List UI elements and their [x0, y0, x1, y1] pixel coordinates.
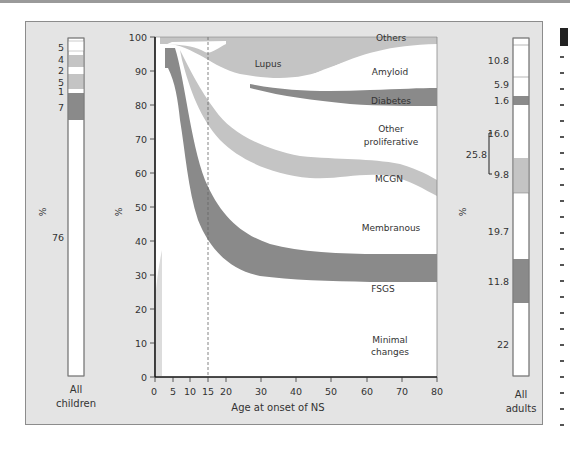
label-mcgn: MCGN: [375, 174, 403, 184]
adjacent-text-column: [560, 28, 570, 448]
adults-bracket-label: 25.8: [466, 149, 487, 160]
adults-seg-diabetes: [513, 96, 529, 105]
y-tick-50: 50: [135, 202, 147, 213]
x-tick-60: 60: [361, 386, 373, 397]
x-axis-label: Age at onset of NS: [231, 402, 324, 413]
y-tick-10: 10: [135, 338, 147, 349]
children-val-0: 5: [58, 42, 64, 53]
label-others: Others: [376, 33, 407, 43]
adults-axis-label: %: [458, 207, 468, 216]
y-tick-80: 80: [135, 100, 147, 111]
children-val-5: 7: [58, 102, 64, 113]
x-tick-80: 80: [431, 386, 443, 397]
x-tick-50: 50: [325, 386, 337, 397]
x-tick-70: 70: [396, 386, 408, 397]
children-label-2: children: [56, 398, 96, 409]
label-other-prolif-1: Other: [378, 124, 404, 134]
main-plot: 0 10 20 30 40 50 60 70 80 90 100 %: [114, 32, 443, 413]
children-seg-fsgs: [68, 93, 84, 120]
children-seg-membranous: [68, 89, 84, 93]
adjacent-heading-fragment: [560, 28, 568, 46]
y-tick-100: 100: [129, 32, 147, 43]
x-tick-30: 30: [255, 386, 267, 397]
adults-seg-mcgn: [513, 158, 529, 193]
adults-val-2: 1.6: [494, 95, 509, 106]
label-lupus: Lupus: [255, 59, 282, 69]
x-tick-15: 15: [202, 386, 214, 397]
children-axis-label: %: [38, 207, 48, 216]
children-seg-otherprolif: [68, 67, 84, 74]
y-tick-40: 40: [135, 236, 147, 247]
children-bar: 5 4 2 5 1 7 76 % All children: [38, 38, 96, 409]
y-tick-90: 90: [135, 66, 147, 77]
adults-label-2: adults: [506, 403, 537, 414]
adults-val-7: 22: [497, 339, 509, 350]
x-tick-5: 5: [170, 386, 176, 397]
children-val-2: 2: [58, 65, 64, 76]
adults-bar: 10.8 5.9 1.6 16.0 9.8 19.7 11.8 22 25.8 …: [458, 38, 536, 414]
children-label-1: All: [70, 384, 82, 395]
y-tick-0: 0: [141, 372, 147, 383]
label-membranous: Membranous: [362, 223, 421, 233]
y-axis-label: %: [114, 207, 124, 216]
label-fsgs: FSGS: [371, 284, 395, 294]
y-tick-20: 20: [135, 304, 147, 315]
children-val-6: 76: [52, 232, 64, 243]
adults-val-5: 19.7: [488, 226, 509, 237]
children-val-4: 1: [58, 86, 64, 97]
adults-label-1: All: [515, 389, 527, 400]
children-seg-mcgn: [68, 74, 84, 89]
adults-val-1: 5.9: [494, 79, 509, 90]
children-seg-lupus: [68, 55, 84, 67]
x-tick-20: 20: [220, 386, 232, 397]
children-val-1: 4: [58, 54, 64, 65]
label-amyloid: Amyloid: [372, 67, 408, 77]
label-other-prolif-2: proliferative: [364, 137, 419, 147]
y-tick-30: 30: [135, 270, 147, 281]
x-tick-40: 40: [290, 386, 302, 397]
adults-val-6: 11.8: [488, 276, 509, 287]
adults-val-4: 9.8: [494, 169, 509, 180]
adults-val-0: 10.8: [488, 55, 509, 66]
bracket: [489, 133, 492, 174]
chart-svg: 5 4 2 5 1 7 76 % All children: [0, 0, 570, 452]
children-seg-others: [68, 41, 84, 51]
x-tick-0: 0: [151, 386, 157, 397]
label-diabetes: Diabetes: [371, 96, 411, 106]
y-tick-60: 60: [135, 168, 147, 179]
label-minimal-2: changes: [371, 347, 409, 357]
adults-seg-fsgs: [513, 259, 529, 303]
y-tick-70: 70: [135, 134, 147, 145]
label-minimal-1: Minimal: [372, 335, 407, 345]
x-tick-10: 10: [184, 386, 196, 397]
